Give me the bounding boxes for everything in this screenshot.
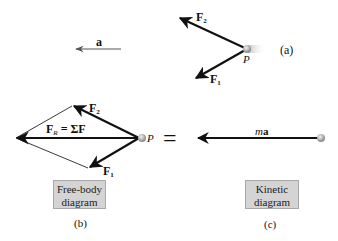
resultant-equation: = ΣF [58, 122, 86, 136]
free-body-box-line1: Free-body [54, 183, 105, 196]
force-2-label-b: F2 [89, 102, 100, 116]
force-2-label: F2 [196, 11, 207, 25]
force-2-subscript: 2 [203, 17, 207, 25]
acceleration-label: a [96, 36, 102, 48]
parallelogram-edge-bottom [16, 138, 88, 168]
caption-a: (a) [280, 44, 293, 56]
force-1-subscript-b: 1 [110, 171, 114, 179]
equals-sign: = [163, 126, 177, 150]
panel-b [16, 106, 146, 168]
ma-label: ma [255, 126, 268, 137]
caption-b: (b) [74, 218, 87, 229]
particle-icon-b [138, 134, 146, 142]
force-1-arrow [196, 49, 247, 78]
ma-label-m: m [255, 125, 263, 137]
force-1-arrow-b [90, 138, 139, 167]
ma-label-a: a [263, 125, 269, 137]
kinetic-box-line2: diagram [246, 196, 298, 209]
particle-label-b: P [147, 133, 154, 144]
caption-c: (c) [264, 219, 276, 230]
free-body-diagram-box: Free-body diagram [53, 180, 106, 209]
particle-icon-c [317, 134, 325, 142]
force-1-label: F1 [210, 73, 221, 87]
force-1-label-b: F1 [103, 165, 114, 179]
particle-icon [243, 45, 251, 53]
particle-label: P [243, 54, 250, 65]
force-2-subscript-b: 2 [96, 108, 100, 116]
force-1-subscript: 1 [217, 79, 221, 87]
resultant-label: FR = ΣF [46, 123, 86, 137]
force-2-arrow [180, 18, 247, 49]
panel-a [76, 18, 266, 78]
free-body-box-line2: diagram [54, 196, 105, 209]
kinetic-diagram-box: Kinetic diagram [245, 180, 299, 209]
kinetic-box-line1: Kinetic [246, 183, 298, 196]
